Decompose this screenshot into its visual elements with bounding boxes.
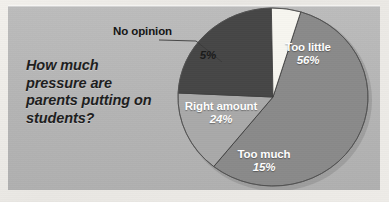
callout-label-no-opinion: No opinion [113, 25, 172, 37]
slice-value: 5% [192, 49, 224, 62]
page-title: How much pressure are parents putting on… [26, 57, 162, 127]
slice-name: Too much [222, 148, 306, 161]
slice-name: Right amount [169, 100, 273, 113]
slice-value: 15% [222, 161, 306, 174]
slice-value: 56% [268, 54, 348, 67]
slice-label-too-little: Too little 56% [268, 41, 348, 67]
slice-name: Too little [268, 41, 348, 54]
slice-value: 24% [169, 113, 273, 126]
slice-label-right-amount: Right amount 24% [169, 100, 273, 126]
slice-label-too-much: Too much 15% [222, 148, 306, 174]
slice-label-no-opinion: 5% [192, 49, 224, 62]
screenshot-root: How much pressure are parents putting on… [0, 0, 389, 202]
